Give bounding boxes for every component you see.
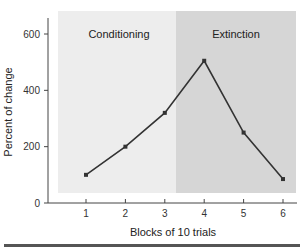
x-tick-label: 3 xyxy=(162,208,168,219)
data-point-marker xyxy=(281,177,285,181)
y-tick-label: 600 xyxy=(23,29,40,40)
data-point-marker xyxy=(202,59,206,63)
y-tick-label: 0 xyxy=(34,198,40,209)
bottom-rule xyxy=(4,244,300,247)
x-tick-label: 2 xyxy=(123,208,129,219)
y-axis-title: Percent of change xyxy=(2,67,14,156)
data-point-marker xyxy=(242,131,246,135)
x-tick-label: 6 xyxy=(280,208,286,219)
extinction-label: Extinction xyxy=(212,28,260,40)
y-tick-label: 200 xyxy=(23,141,40,152)
x-axis-title: Blocks of 10 trials xyxy=(130,226,217,238)
x-tick-label: 5 xyxy=(241,208,247,219)
y-tick-label: 400 xyxy=(23,85,40,96)
data-point-marker xyxy=(84,173,88,177)
y-axis-ticks: 0200400600 xyxy=(23,29,48,209)
data-point-marker xyxy=(123,145,127,149)
x-tick-label: 4 xyxy=(201,208,207,219)
conditioning-label: Conditioning xyxy=(88,28,149,40)
data-point-marker xyxy=(163,111,167,115)
chart: Conditioning Extinction 0200400600 12345… xyxy=(0,0,307,248)
x-axis-ticks: 123456 xyxy=(83,199,286,219)
x-tick-label: 1 xyxy=(83,208,89,219)
